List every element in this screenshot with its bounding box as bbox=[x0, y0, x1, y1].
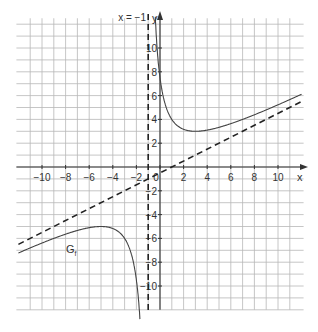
y-tick-label: −2 bbox=[146, 186, 158, 197]
x-tick-label: 4 bbox=[204, 172, 210, 183]
x-tick-label: 10 bbox=[272, 172, 284, 183]
y-tick-label: 4 bbox=[151, 114, 157, 125]
x-tick-label: 8 bbox=[252, 172, 258, 183]
axes bbox=[16, 11, 308, 310]
y-tick-label: 8 bbox=[151, 67, 157, 78]
x-tick-label: 2 bbox=[181, 172, 187, 183]
annotations: x = −1 y x Gf bbox=[66, 12, 303, 257]
x-tick-label: 6 bbox=[228, 172, 234, 183]
x-axis-arrow-icon bbox=[300, 164, 308, 170]
curve-left-branch bbox=[18, 227, 139, 320]
curve-right-branch bbox=[155, 17, 301, 132]
y-tick-label: 2 bbox=[151, 138, 157, 149]
x-tick-label: −4 bbox=[107, 172, 119, 183]
x-tick-label: −8 bbox=[60, 172, 72, 183]
y-axis-label: y bbox=[152, 12, 158, 24]
x-tick-label: −10 bbox=[34, 172, 51, 183]
y-axis-arrow-icon bbox=[157, 11, 163, 20]
x-tick-label: −6 bbox=[83, 172, 95, 183]
x-axis-label: x bbox=[297, 171, 303, 183]
function-graph: −10−8−6−4−20246810108642−2−4−6−8−10 x = … bbox=[0, 0, 318, 332]
y-tick-label: −8 bbox=[146, 257, 158, 268]
y-tick-label: −4 bbox=[146, 210, 158, 221]
x-tick-label: 0 bbox=[153, 172, 159, 183]
y-tick-label: −6 bbox=[146, 233, 158, 244]
vertical-asymptote-label: x = −1 bbox=[118, 12, 146, 23]
curve-label: Gf bbox=[66, 243, 77, 257]
y-tick-label: 6 bbox=[151, 91, 157, 102]
x-tick-label: −2 bbox=[131, 172, 143, 183]
